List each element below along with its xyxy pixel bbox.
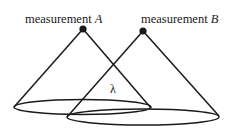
diagram-svg: measurement A measurement B λ <box>0 0 232 134</box>
cone-a-right-edge <box>83 29 151 108</box>
measurement-a-label: measurement A <box>25 12 103 26</box>
cone-b-right-edge <box>143 31 219 116</box>
measurement-b-point <box>139 27 146 34</box>
cone-b-base-ellipse <box>67 109 219 125</box>
measurement-b-label: measurement B <box>141 12 219 26</box>
cone-a <box>14 29 151 115</box>
cone-b-left-edge <box>67 31 143 117</box>
measurement-a-point <box>79 25 86 32</box>
cone-a-left-edge <box>14 29 83 107</box>
overlap-lambda-label: λ <box>110 82 116 96</box>
cone-overlap-diagram: measurement A measurement B λ <box>0 0 232 134</box>
